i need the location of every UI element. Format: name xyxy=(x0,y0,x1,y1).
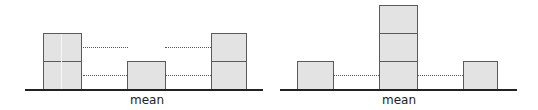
stack-left-unit-block xyxy=(43,33,82,91)
unit-divider xyxy=(43,61,82,62)
diagram-right: mean xyxy=(269,0,538,110)
unit-divider xyxy=(211,61,247,62)
stack-mean-unit-block xyxy=(379,5,418,91)
stack-left-unit-block xyxy=(297,61,334,91)
guide-dotted-line xyxy=(83,75,127,76)
mean-label: mean xyxy=(369,93,429,107)
guide-dotted-line xyxy=(166,75,211,76)
baseline-axis xyxy=(25,89,263,91)
highlight-line xyxy=(61,34,62,90)
guide-dotted-line xyxy=(83,47,128,48)
guide-dotted-line xyxy=(165,47,211,48)
stack-mean-unit-block xyxy=(127,61,166,91)
unit-divider xyxy=(379,33,418,34)
guide-dotted-line xyxy=(418,75,463,76)
stack-right-unit-block xyxy=(211,33,247,91)
baseline-axis xyxy=(280,89,517,91)
diagram-left: mean xyxy=(0,0,269,110)
stack-right-unit-block xyxy=(463,61,498,91)
mean-label: mean xyxy=(117,93,177,107)
unit-divider xyxy=(379,61,418,62)
guide-dotted-line xyxy=(334,75,379,76)
